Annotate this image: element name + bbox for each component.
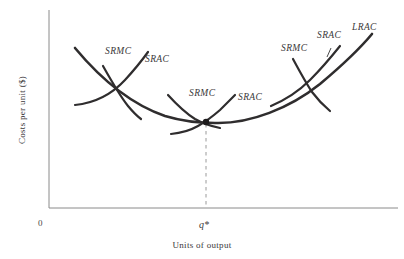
origin-label: 0 <box>38 218 43 228</box>
srmc-curve-right <box>293 59 330 111</box>
x-axis-title: Units of output <box>172 240 231 250</box>
cost-curves-figure: SRMC SRAC SRMC SRAC SRMC SRAC LRAC 0 q* … <box>0 0 404 259</box>
x-marker-label: q* <box>199 219 209 230</box>
label-srmc-right: SRMC <box>281 43 308 53</box>
label-lrac: LRAC <box>351 22 377 32</box>
label-srmc-mid: SRMC <box>189 88 216 98</box>
plot-area: SRMC SRAC SRMC SRAC SRMC SRAC LRAC 0 q* … <box>0 0 404 259</box>
label-srac-mid: SRAC <box>238 92 263 102</box>
y-axis-title: Costs per unit ($) <box>17 76 27 144</box>
label-srac-left: SRAC <box>145 54 170 64</box>
label-srmc-left: SRMC <box>105 46 132 56</box>
tangency-dot <box>203 119 209 125</box>
srac-leader-line <box>327 48 331 57</box>
srac-curve-mid <box>171 95 235 134</box>
label-srac-right: SRAC <box>317 30 342 40</box>
